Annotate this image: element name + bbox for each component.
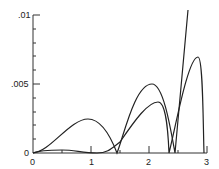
y-tick-label: .005 (11, 79, 29, 89)
x-axis: 0 1 2 3 (30, 146, 209, 167)
y-tick-label: 0 (24, 148, 29, 158)
x-tick-label: 1 (89, 157, 94, 167)
x-tick-label: 0 (30, 157, 35, 167)
series-curve-2 (33, 57, 204, 153)
y-tick-label: .01 (18, 10, 31, 20)
series-curve-1 (33, 10, 188, 153)
x-tick-label: 2 (146, 157, 151, 167)
x-tick-label: 3 (204, 157, 209, 167)
y-axis: .01 .005 0 (11, 10, 40, 158)
line-chart: .01 .005 0 0 1 2 3 (0, 0, 219, 169)
